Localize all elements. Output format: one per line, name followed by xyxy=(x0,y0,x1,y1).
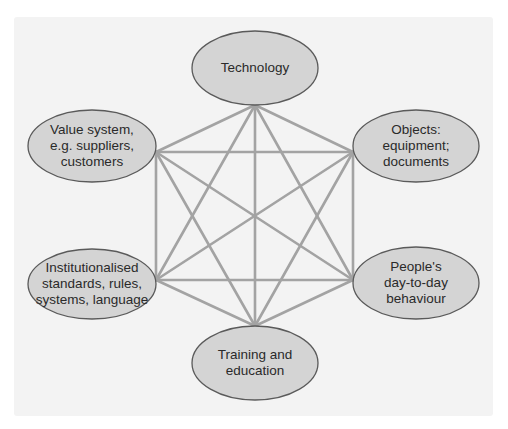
node-label-line: Value system, xyxy=(50,122,134,138)
node-label-training: Training andeducation xyxy=(192,326,318,400)
edge-technology-peoples-behaviour xyxy=(255,105,353,280)
edge-technology-value-system xyxy=(156,105,255,152)
node-label-line: behaviour xyxy=(386,291,445,307)
node-label-line: equipment; xyxy=(383,138,450,154)
node-label-line: customers xyxy=(61,154,123,170)
node-label-institutionalised: Institutionalisedstandards, rules,system… xyxy=(28,249,156,319)
node-label-line: People's xyxy=(390,259,441,275)
node-label-line: education xyxy=(226,363,285,379)
node-label-line: Technology xyxy=(221,60,289,76)
node-label-line: Training and xyxy=(218,347,293,363)
node-label-line: day-to-day xyxy=(384,275,448,291)
node-label-line: systems, language xyxy=(36,292,149,308)
node-label-peoples-behaviour: People'sday-to-daybehaviour xyxy=(353,247,479,319)
node-label-line: standards, rules, xyxy=(42,276,142,292)
edge-technology-objects xyxy=(255,105,353,152)
node-label-technology: Technology xyxy=(192,31,318,105)
node-label-line: e.g. suppliers, xyxy=(50,138,134,154)
node-label-value-system: Value system,e.g. suppliers,customers xyxy=(28,110,156,182)
edge-value-system-training xyxy=(156,152,255,326)
edge-objects-training xyxy=(255,152,353,326)
edge-peoples-behaviour-training xyxy=(255,280,353,326)
node-label-line: documents xyxy=(383,154,449,170)
edge-institutionalised-training xyxy=(156,280,255,326)
connection-lines xyxy=(156,105,353,326)
node-label-objects: Objects:equipment;documents xyxy=(353,110,479,182)
node-label-line: Institutionalised xyxy=(45,260,138,276)
edge-technology-institutionalised xyxy=(156,105,255,280)
node-label-line: Objects: xyxy=(391,122,441,138)
